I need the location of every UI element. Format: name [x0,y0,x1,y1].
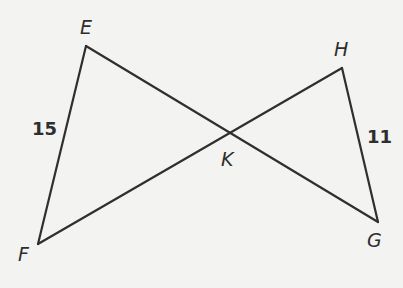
segment-EF [38,46,86,244]
geometry-diagram: E F K H G 15 11 [0,0,403,288]
vertex-label-E: E [80,18,92,37]
vertex-label-H: H [334,40,348,59]
length-label-EF: 15 [32,120,57,138]
vertex-label-F: F [18,245,29,264]
vertex-label-K: K [221,150,233,169]
vertex-label-G: G [367,231,382,250]
segment-FH [38,68,342,244]
length-label-HG: 11 [367,128,392,146]
